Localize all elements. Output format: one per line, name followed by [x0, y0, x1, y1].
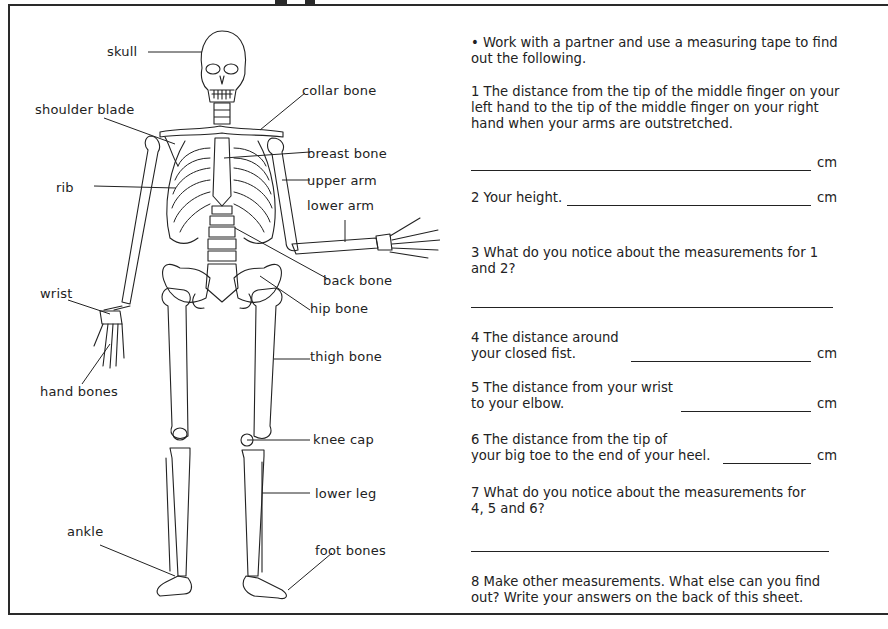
unit-2: cm: [817, 190, 837, 205]
label-collar-bone: collar bone: [302, 83, 376, 98]
label-ankle: ankle: [67, 524, 103, 539]
skeleton-diagram: skull collar bone shoulder blade breast …: [10, 6, 440, 613]
label-thigh-bone: thigh bone: [310, 349, 382, 364]
label-skull: skull: [107, 44, 137, 59]
label-foot-bones: foot bones: [315, 543, 386, 558]
question-4-line-2: your closed fist.: [471, 346, 576, 362]
answer-line-4[interactable]: [631, 361, 811, 362]
unit-5: cm: [817, 396, 837, 411]
question-6-line-2: your big toe to the end of your heel.: [471, 448, 710, 464]
question-8: 8 Make other measurements. What else can…: [471, 574, 841, 606]
label-lower-leg: lower leg: [315, 486, 376, 501]
label-hip-bone: hip bone: [310, 301, 368, 316]
label-shoulder-blade: shoulder blade: [35, 102, 134, 117]
unit-6: cm: [817, 448, 837, 463]
question-4-line-1: 4 The distance around: [471, 330, 619, 346]
question-1: 1 The distance from the tip of the middl…: [471, 84, 841, 132]
question-2: 2 Your height.: [471, 190, 562, 206]
answer-line-2[interactable]: [567, 205, 811, 206]
unit-1: cm: [817, 155, 837, 170]
label-upper-arm: upper arm: [307, 173, 377, 188]
label-hand-bones: hand bones: [40, 384, 118, 399]
unit-4: cm: [817, 346, 837, 361]
answer-line-6[interactable]: [723, 463, 811, 464]
label-lower-arm: lower arm: [307, 198, 374, 213]
label-rib: rib: [56, 180, 74, 195]
question-7: 7 What do you notice about the measureme…: [471, 485, 821, 517]
question-6-line-1: 6 The distance from the tip of: [471, 432, 667, 448]
label-back-bone: back bone: [323, 273, 392, 288]
answer-line-1[interactable]: [471, 170, 811, 171]
label-breast-bone: breast bone: [307, 146, 387, 161]
intro-instructions: • Work with a partner and use a measurin…: [471, 35, 841, 67]
label-knee-cap: knee cap: [313, 432, 374, 447]
answer-line-7[interactable]: [471, 551, 829, 552]
answer-line-5[interactable]: [681, 411, 811, 412]
question-3: 3 What do you notice about the measureme…: [471, 245, 821, 277]
label-wrist: wrist: [40, 286, 72, 301]
answer-line-3[interactable]: [471, 307, 833, 308]
question-5-line-1: 5 The distance from your wrist: [471, 380, 673, 396]
question-5-line-2: to your elbow.: [471, 396, 564, 412]
